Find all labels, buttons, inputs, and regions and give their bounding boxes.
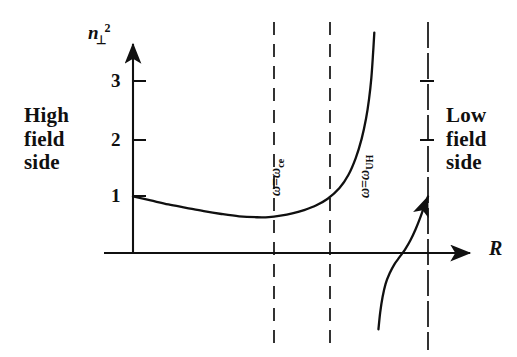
x-axis-label: R: [489, 237, 502, 259]
omega-ce-rhs: ω: [268, 168, 283, 178]
omega-ce-lhs: ω: [268, 186, 283, 196]
omega-ce-subscript: ce: [275, 159, 286, 168]
plot-canvas: [0, 0, 517, 357]
omega-uh-resonance-label: ω=ωUH: [357, 155, 375, 198]
figure-container: n⊥2 R 1 2 3 High field side Low field si…: [0, 0, 517, 357]
omega-uh-subscript: UH: [364, 155, 375, 170]
high-field-side-label: High field side: [24, 104, 69, 175]
y-axis-label: n⊥2: [88, 22, 111, 48]
y-axis-superscript: 2: [105, 21, 111, 35]
omega-uh-rhs: ω: [357, 170, 372, 180]
y-tick-label-3: 3: [111, 70, 121, 92]
low-field-side-label: Low field side: [446, 104, 487, 175]
curve-branch-left: [133, 33, 374, 218]
omega-uh-eq: =: [357, 180, 372, 188]
curve-branch-right: [378, 197, 428, 330]
y-tick-label-2: 2: [111, 129, 121, 151]
omega-ce-eq: =: [268, 178, 283, 186]
omega-uh-lhs: ω: [357, 188, 372, 198]
y-tick-label-1: 1: [111, 185, 121, 207]
omega-ce-resonance-label: ω=ωce: [268, 159, 286, 196]
y-axis-subscript: ⊥: [96, 33, 106, 47]
